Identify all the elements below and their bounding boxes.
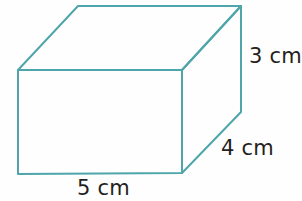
geometry-figure: 3 cm 4 cm 5 cm	[0, 0, 302, 201]
top-face-edges	[18, 6, 241, 70]
front-face-edges	[18, 70, 182, 174]
width-dimension-label: 5 cm	[77, 178, 130, 199]
cuboid-edges	[18, 6, 241, 174]
cuboid-drawing	[0, 0, 302, 201]
depth-dimension-label: 4 cm	[221, 138, 274, 159]
height-dimension-label: 3 cm	[249, 46, 302, 67]
